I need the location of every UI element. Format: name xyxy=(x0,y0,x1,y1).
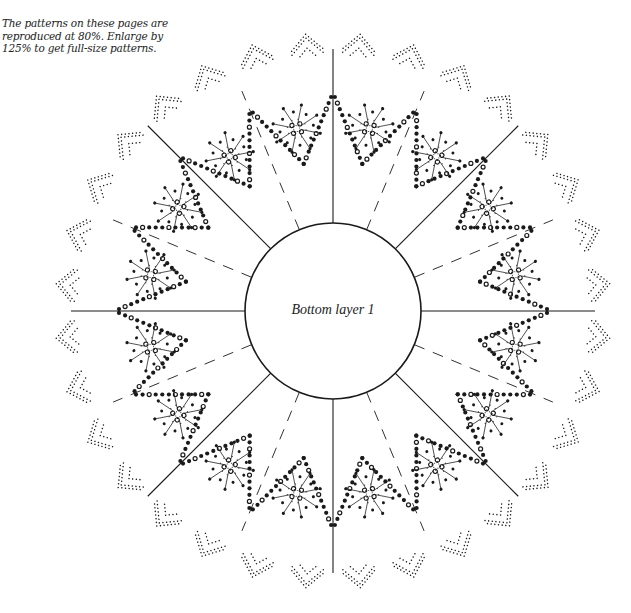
lace-point xyxy=(237,551,275,583)
lace-point xyxy=(439,529,479,565)
star-motif xyxy=(269,465,325,521)
lace-point xyxy=(289,32,324,58)
lace-point xyxy=(54,268,80,303)
lace-point xyxy=(573,369,605,407)
lace-point xyxy=(187,58,227,94)
lace-point xyxy=(107,122,146,162)
lace-point xyxy=(54,320,80,355)
lace-point xyxy=(79,165,115,205)
lace-point xyxy=(80,417,116,457)
lace-point xyxy=(520,121,559,161)
star-motif xyxy=(123,319,179,375)
star-motif xyxy=(269,101,325,157)
lace-point xyxy=(187,529,227,565)
star-motif xyxy=(341,101,397,157)
lace-point xyxy=(520,460,559,500)
lace-point xyxy=(483,498,523,537)
lace-point xyxy=(342,32,377,58)
lace-point xyxy=(290,564,325,590)
lace-point xyxy=(342,564,377,590)
lace-point xyxy=(586,267,612,302)
star-motif xyxy=(341,465,397,521)
lace-point xyxy=(62,370,94,408)
lace-point xyxy=(586,320,612,355)
lace-point xyxy=(392,551,430,583)
center-label: Bottom layer 1 xyxy=(253,302,413,318)
lace-point xyxy=(551,165,587,205)
lace-point xyxy=(573,214,605,252)
star-motif xyxy=(487,247,543,303)
lace-point xyxy=(236,40,274,72)
star-motif xyxy=(487,319,543,375)
lace-point xyxy=(61,215,93,253)
star-motif xyxy=(123,247,179,303)
lace-point xyxy=(391,39,429,71)
lace-point xyxy=(107,461,146,501)
lace-point xyxy=(144,498,184,537)
lace-point xyxy=(482,85,522,124)
lace-point xyxy=(143,85,183,124)
lace-point xyxy=(439,57,479,93)
lace-point xyxy=(551,417,587,457)
